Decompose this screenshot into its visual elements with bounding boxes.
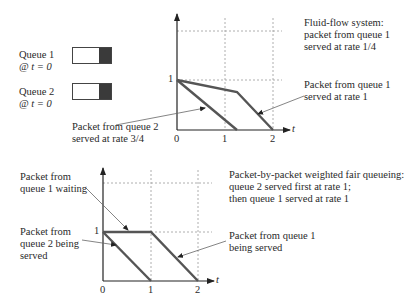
top-queue2-line	[177, 80, 237, 130]
annotation-line: queue 1 waiting	[20, 183, 87, 195]
bottom-x-tick-1: 1	[148, 284, 153, 295]
top-grid	[177, 18, 282, 130]
top-annotation-left: Packet from queue 2 served at rate 3/4	[72, 121, 159, 145]
bottom-queue2-line	[103, 232, 151, 281]
annotation-line: being served	[229, 242, 316, 254]
top-x-axis-label: t	[292, 123, 295, 134]
bottom-x-axis-label: t	[216, 274, 219, 285]
top-title-line: Fluid-flow system:	[304, 17, 390, 29]
bottom-graph	[82, 168, 226, 281]
annotation-line: served	[20, 250, 79, 262]
bottom-x-tick-0: 0	[100, 284, 105, 295]
bottom-annotation-right: Packet from queue 1 being served	[229, 230, 316, 254]
annotation-line: queue 2 being	[20, 238, 79, 250]
bottom-queue1-leader	[178, 241, 226, 257]
annotation-line: served at rate 1	[304, 91, 391, 103]
bottom-title-line: then queue 1 served at rate 1	[229, 193, 404, 205]
bottom-y-tick-1: 1	[94, 225, 99, 236]
top-x-tick-0: 0	[174, 133, 179, 144]
bottom-queue1-line	[103, 232, 198, 281]
annotation-line: Packet from queue 1	[304, 79, 391, 91]
top-graph-title: Fluid-flow system: packet from queue 1 s…	[304, 17, 390, 53]
queue2-name: Queue 2	[19, 86, 54, 98]
top-title-line: served at rate 1/4	[304, 41, 390, 53]
queue1-time: @ t = 0	[19, 61, 54, 73]
annotation-line: Packet from queue 2	[72, 121, 159, 133]
bottom-waiting-leader	[86, 188, 128, 230]
top-x-tick-2: 2	[270, 133, 275, 144]
queue2-label: Queue 2 @ t = 0	[19, 86, 54, 110]
bottom-title-line: queue 2 served first at rate 1;	[229, 181, 404, 193]
bottom-title-line: Packet-by-packet weighted fair queueing:	[229, 169, 404, 181]
bottom-annotation-waiting: Packet from queue 1 waiting	[20, 171, 87, 195]
annotation-line: Packet from	[20, 226, 79, 238]
bottom-x-tick-2: 2	[195, 284, 200, 295]
bottom-annotation-queue2: Packet from queue 2 being served	[20, 226, 79, 262]
top-graph	[116, 14, 304, 130]
queue1-name: Queue 1	[19, 49, 54, 61]
annotation-line: Packet from	[20, 171, 87, 183]
queue2-time: @ t = 0	[19, 98, 54, 110]
queue1-buffer-icon	[72, 47, 112, 64]
bottom-graph-title: Packet-by-packet weighted fair queueing:…	[229, 169, 404, 205]
top-annotation-right: Packet from queue 1 served at rate 1	[304, 79, 391, 103]
queue2-packet	[99, 84, 111, 99]
annotation-line: served at rate 3/4	[72, 133, 159, 145]
top-y-tick-1: 1	[168, 73, 173, 84]
bottom-grid	[103, 170, 212, 281]
top-right-leader	[258, 96, 304, 114]
annotation-line: Packet from queue 1	[229, 230, 316, 242]
queue1-label: Queue 1 @ t = 0	[19, 49, 54, 73]
queue1-packet	[99, 48, 111, 63]
queue2-buffer-icon	[72, 83, 112, 100]
top-x-tick-1: 1	[222, 133, 227, 144]
top-title-line: packet from queue 1	[304, 29, 390, 41]
